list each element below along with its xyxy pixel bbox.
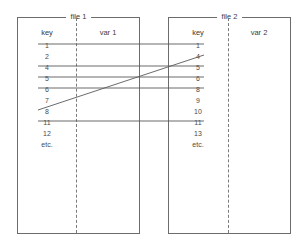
key-list: 12456781112etc. [18, 40, 76, 150]
key-cell: 5 [18, 73, 76, 84]
key-cell: 12 [18, 128, 76, 139]
file-title: file 2 [217, 12, 243, 22]
key-cell: 1 [169, 40, 227, 51]
var-column-header: var 1 [76, 28, 140, 37]
file-panel-file-1: file 1 key var 1 12456781112etc. [17, 17, 140, 234]
var-column-header: var 2 [227, 28, 291, 37]
key-cell: 2 [18, 51, 76, 62]
key-cell: 8 [18, 106, 76, 117]
file-title: file 1 [66, 12, 92, 22]
key-cell: 8 [169, 84, 227, 95]
key-cell: 9 [169, 95, 227, 106]
key-cell: 1 [18, 40, 76, 51]
key-cell: etc. [169, 139, 227, 150]
key-matching-diagram: file 1 key var 1 12456781112etc. file 2 … [0, 0, 302, 249]
key-cell: 6 [18, 84, 76, 95]
key-cell: 7 [18, 95, 76, 106]
file-panel-file-2: file 2 key var 2 145689101113etc. [168, 17, 291, 234]
key-cell: etc. [18, 139, 76, 150]
key-cell: 4 [18, 62, 76, 73]
key-column-header: key [18, 28, 76, 37]
column-divider [228, 18, 229, 233]
key-list: 145689101113etc. [169, 40, 227, 150]
key-cell: 4 [169, 51, 227, 62]
column-divider [76, 18, 77, 233]
key-cell: 11 [18, 117, 76, 128]
key-column-header: key [169, 28, 227, 37]
key-cell: 11 [169, 117, 227, 128]
key-cell: 5 [169, 62, 227, 73]
key-cell: 10 [169, 106, 227, 117]
key-cell: 6 [169, 73, 227, 84]
key-cell: 13 [169, 128, 227, 139]
